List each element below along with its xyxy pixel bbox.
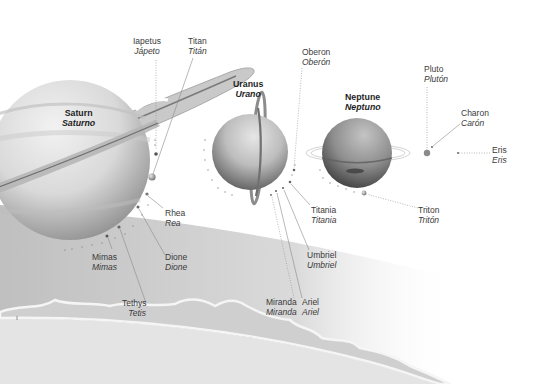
label-mimas-en: Mimas [92, 252, 117, 262]
label-neptune-en: Neptune [345, 92, 381, 102]
label-umbriel: Umbriel Umbriel [307, 250, 336, 270]
charon-moon [431, 146, 433, 148]
label-triton: Triton Tritón [418, 205, 439, 225]
label-oberon: Oberon Oberón [302, 47, 330, 67]
label-oberon-en: Oberon [302, 47, 330, 57]
label-rhea: Rhea Rea [165, 208, 185, 228]
label-eris-es: Eris [492, 155, 507, 165]
mimas-moon [106, 235, 109, 238]
label-charon: Charon Carón [461, 108, 489, 128]
label-iapetus: Iapetus Jápeto [133, 36, 161, 56]
label-neptune: Neptune Neptuno [345, 92, 381, 112]
tethys-moon [117, 225, 120, 228]
label-tethys-en: Tethys [122, 298, 146, 308]
label-ariel-en: Ariel [302, 297, 319, 307]
label-eris-en: Eris [492, 145, 507, 155]
label-charon-en: Charon [461, 108, 489, 118]
illustration-canvas [0, 0, 538, 384]
dione-moon [137, 206, 140, 209]
label-mimas: Mimas Mimas [92, 252, 117, 272]
iapetus-moon [154, 152, 158, 156]
pluto-dwarf-planet [424, 150, 430, 156]
label-iapetus-es: Jápeto [133, 46, 161, 56]
label-oberon-es: Oberón [302, 57, 330, 67]
label-charon-es: Carón [461, 118, 489, 128]
label-saturn-en: Saturn [62, 108, 95, 118]
label-uranus-en: Uranus [233, 79, 263, 89]
label-titan-en: Titan [188, 36, 207, 46]
label-uranus-es: Urano [233, 89, 263, 99]
label-dione-es: Dione [165, 262, 187, 272]
label-triton-es: Tritón [418, 215, 439, 225]
neptune-planet [306, 118, 410, 188]
label-uranus: Uranus Urano [233, 79, 263, 99]
label-dione-en: Dione [165, 252, 187, 262]
label-mimas-es: Mimas [92, 262, 117, 272]
label-titania-es: Titania [311, 215, 336, 225]
miranda-moon [270, 194, 272, 196]
label-tethys: Tethys Tetis [122, 298, 146, 318]
label-ariel-es: Ariel [302, 307, 319, 317]
triton-moon [362, 191, 367, 196]
label-dione: Dione Dione [165, 252, 187, 272]
label-titania: Titania Titania [311, 205, 336, 225]
label-rhea-es: Rea [165, 218, 185, 228]
label-miranda-es: Miranda [266, 307, 297, 317]
label-titan-es: Titán [188, 46, 207, 56]
label-triton-en: Triton [418, 205, 439, 215]
eris-dwarf-planet [457, 152, 459, 154]
label-pluto: Pluto Plutón [424, 64, 448, 84]
label-pluto-es: Plutón [424, 74, 448, 84]
label-umbriel-en: Umbriel [307, 250, 336, 260]
label-titania-en: Titania [311, 205, 336, 215]
label-pluto-en: Pluto [424, 64, 448, 74]
label-neptune-es: Neptuno [345, 102, 381, 112]
umbriel-moon [282, 187, 284, 189]
rhea-moon [145, 192, 148, 195]
titania-moon [289, 181, 292, 184]
label-miranda-en: Miranda [266, 297, 297, 307]
label-rhea-en: Rhea [165, 208, 185, 218]
ariel-moon [275, 190, 277, 192]
solar-system-diagram: Iapetus Jápeto Titan Titán Saturn Saturn… [0, 0, 538, 384]
label-saturn-es: Saturno [62, 118, 95, 128]
oberon-moon [293, 169, 296, 172]
label-tethys-es: Tetis [122, 308, 146, 318]
titan-moon [148, 173, 155, 180]
uranus-planet [212, 92, 288, 205]
label-saturn: Saturn Saturno [62, 108, 95, 128]
label-miranda: Miranda Miranda [266, 297, 297, 317]
label-iapetus-en: Iapetus [133, 36, 161, 46]
label-eris: Eris Eris [492, 145, 507, 165]
label-titan: Titan Titán [188, 36, 207, 56]
label-umbriel-es: Umbriel [307, 260, 336, 270]
label-ariel: Ariel Ariel [302, 297, 319, 317]
